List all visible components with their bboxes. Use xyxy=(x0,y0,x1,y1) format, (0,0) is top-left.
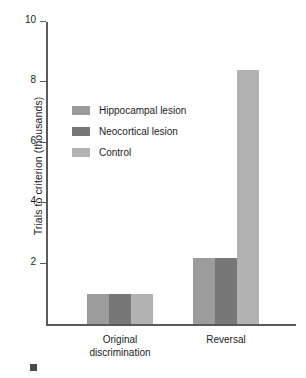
plot-area: 10 8 6 4 2 Original discriminationRevers… xyxy=(46,22,296,326)
bar-control-group-2 xyxy=(237,70,259,324)
legend-label-neocortical-lesion: Neocortical lesion xyxy=(99,126,178,137)
bar-hippocampal-lesion-group-2 xyxy=(193,258,215,325)
legend-item-neocortical-lesion: Neocortical lesion xyxy=(72,123,186,139)
x-axis-label-1: Original discrimination xyxy=(60,334,180,359)
bar-control-group-1 xyxy=(131,294,153,324)
y-tick-label-10: 10 xyxy=(25,14,36,25)
bar-chart-figure: Trials to criterion (thousands) 10 8 6 4… xyxy=(0,0,306,378)
legend-swatch-neocortical-lesion xyxy=(72,127,90,136)
y-tick-6: 6 xyxy=(40,142,46,143)
legend-item-hippocampal-lesion: Hippocampal lesion xyxy=(72,102,186,118)
bar-neocortical-lesion-group-2 xyxy=(215,258,237,325)
y-tick-4: 4 xyxy=(40,202,46,203)
legend-swatch-control xyxy=(72,148,90,157)
y-tick-label-8: 8 xyxy=(30,74,36,85)
chart-legend: Hippocampal lesion Neocortical lesion Co… xyxy=(72,102,186,165)
y-tick-8: 8 xyxy=(40,81,46,82)
legend-label-hippocampal-lesion: Hippocampal lesion xyxy=(99,105,186,116)
legend-swatch-hippocampal-lesion xyxy=(72,106,90,115)
bar-neocortical-lesion-group-1 xyxy=(109,294,131,324)
x-axis-label-2: Reversal xyxy=(166,334,286,347)
y-axis-line xyxy=(46,22,48,326)
bar-hippocampal-lesion-group-1 xyxy=(87,294,109,324)
y-tick-10: 10 xyxy=(40,21,46,22)
x-axis-line xyxy=(46,324,296,326)
y-axis-title: Trials to criterion (thousands) xyxy=(32,66,44,266)
y-tick-label-2: 2 xyxy=(30,256,36,267)
y-tick-2: 2 xyxy=(40,263,46,264)
footnote-square-marker xyxy=(30,364,37,371)
y-tick-label-4: 4 xyxy=(30,195,36,206)
y-tick-label-6: 6 xyxy=(30,135,36,146)
legend-item-control: Control xyxy=(72,144,186,160)
legend-label-control: Control xyxy=(99,147,131,158)
